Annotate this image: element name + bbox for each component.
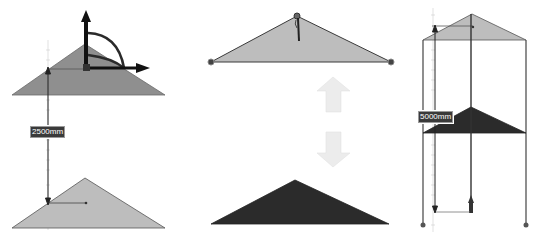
roof-triangle-bottom[interactable] [12,178,165,228]
dimension-label-2500[interactable]: 2500mm [30,126,65,138]
arrow-right-icon[interactable] [136,63,150,73]
vertex-handle[interactable] [388,59,394,65]
vertex-handle[interactable] [208,59,214,65]
roof-triangle-dark[interactable] [211,180,389,224]
swap-arrows [317,77,350,167]
vertex-handle[interactable] [294,13,300,19]
panel-toggle-roof [208,13,394,224]
roof-triangle-light[interactable] [211,16,391,62]
panel-move-roof [12,10,165,230]
down-arrow-icon [317,132,350,167]
up-arrow-icon [317,77,350,112]
roof-triangle-top[interactable] [423,14,526,40]
dimension-label-5000[interactable]: 5000mm [418,111,453,123]
arrow-up-icon[interactable] [81,10,91,22]
canvas [0,0,534,245]
